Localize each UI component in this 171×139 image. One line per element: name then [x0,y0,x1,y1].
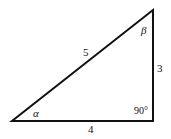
right-angle-label: 90° [134,105,148,116]
base-label: 4 [88,123,94,135]
triangle-shape [12,10,153,121]
angle-beta-label: β [140,24,147,36]
vertical-side-label: 3 [157,62,163,74]
triangle-diagram: 5 3 4 α β 90° [0,0,171,139]
angle-alpha-label: α [33,107,39,119]
hypotenuse-label: 5 [83,46,89,58]
